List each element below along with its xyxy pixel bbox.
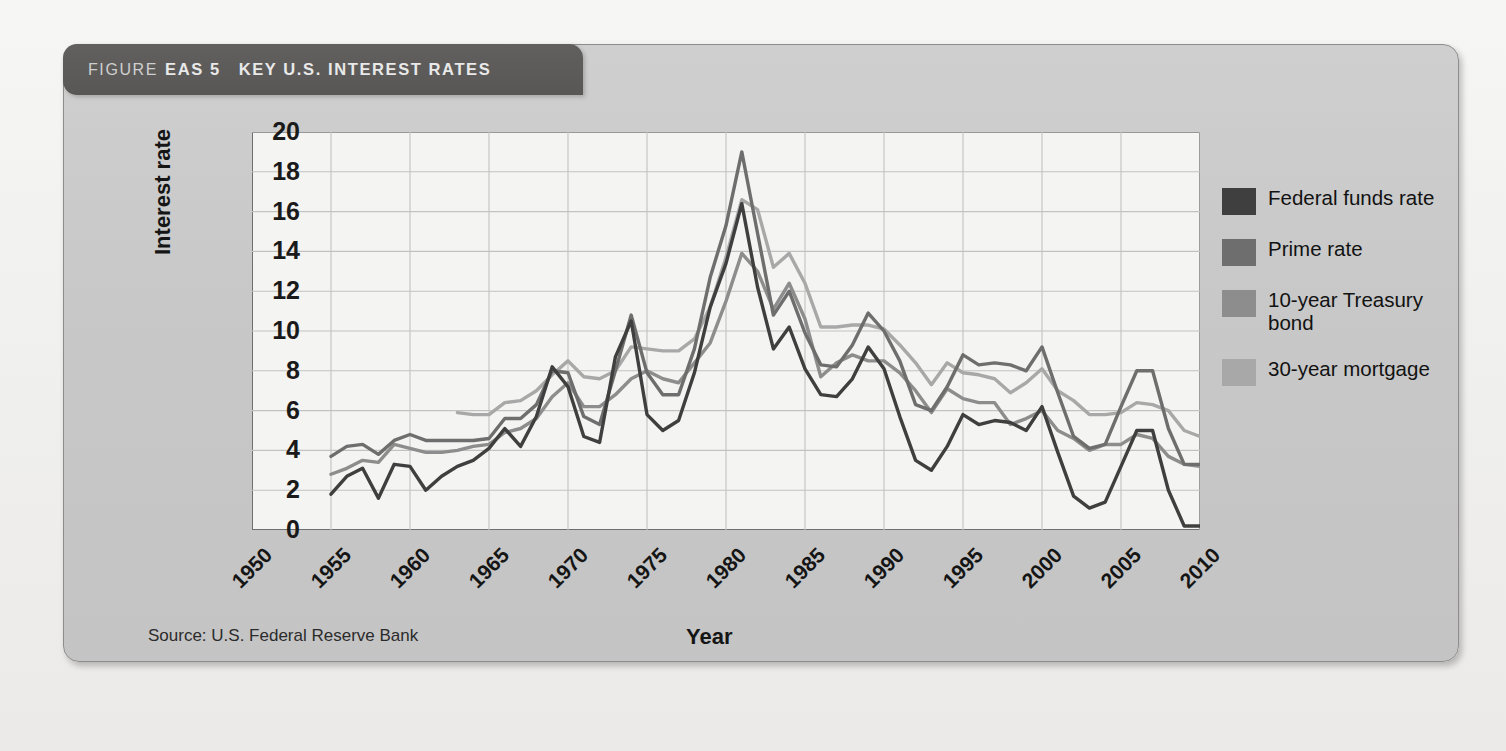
series-line — [457, 200, 1200, 437]
y-axis-tick-label: 16 — [240, 197, 300, 226]
figure-title-bar: FIGURE EAS 5 KEY U.S. INTEREST RATES — [63, 44, 583, 95]
figure-label: FIGURE — [88, 61, 158, 79]
source-note: Source: U.S. Federal Reserve Bank — [148, 626, 418, 646]
legend-item[interactable]: Prime rate — [1222, 237, 1444, 266]
y-axis-tick-label: 10 — [240, 316, 300, 345]
chart-legend: Federal funds ratePrime rate10-year Trea… — [1222, 186, 1444, 408]
x-axis-title: Year — [686, 624, 733, 650]
legend-label: 30-year mortgage — [1268, 357, 1430, 380]
legend-label: Prime rate — [1268, 237, 1363, 260]
y-axis-tick-label: 20 — [240, 117, 300, 146]
figure-number: EAS 5 — [165, 60, 221, 79]
legend-item[interactable]: Federal funds rate — [1222, 186, 1444, 215]
legend-item[interactable]: 10-year Treasury bond — [1222, 288, 1444, 335]
legend-swatch-icon — [1222, 359, 1256, 386]
series-lines — [252, 132, 1200, 530]
y-axis-tick-label: 6 — [240, 396, 300, 425]
y-axis-title: Interest rate — [150, 129, 176, 255]
legend-label: Federal funds rate — [1268, 186, 1434, 209]
y-axis-tick-label: 18 — [240, 157, 300, 186]
legend-swatch-icon — [1222, 188, 1256, 215]
series-line — [331, 152, 1200, 464]
y-axis-tick-label: 2 — [240, 475, 300, 504]
legend-swatch-icon — [1222, 290, 1256, 317]
legend-swatch-icon — [1222, 239, 1256, 266]
legend-item[interactable]: 30-year mortgage — [1222, 357, 1444, 386]
y-axis-tick-label: 14 — [240, 236, 300, 265]
legend-label: 10-year Treasury bond — [1268, 288, 1444, 335]
y-axis-tick-label: 0 — [240, 515, 300, 544]
figure-title: KEY U.S. INTEREST RATES — [239, 60, 492, 79]
plot-wrapper — [252, 132, 1200, 530]
y-axis-tick-label: 4 — [240, 435, 300, 464]
series-line — [331, 204, 1200, 526]
y-axis-tick-label: 12 — [240, 276, 300, 305]
y-axis-tick-label: 8 — [240, 356, 300, 385]
